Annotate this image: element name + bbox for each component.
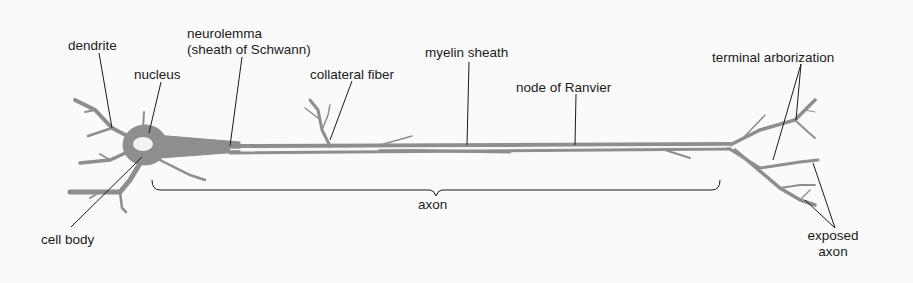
label-myelin-sheath: myelin sheath — [425, 45, 508, 60]
label-collateral-fiber: collateral fiber — [310, 67, 394, 82]
neuron-diagram: dendrite nucleus neurolemma (sheath of S… — [0, 0, 913, 283]
neuron-illustration — [0, 0, 913, 283]
label-node-of-ranvier: node of Ranvier — [516, 80, 611, 95]
label-terminal-arborization: terminal arborization — [712, 50, 834, 65]
label-exposed-axon: exposed — [803, 228, 863, 243]
label-neurolemma: neurolemma — [187, 26, 262, 41]
label-axon: axon — [418, 197, 447, 212]
label-cell-body: cell body — [41, 232, 94, 247]
label-exposed-axon-sub: axon — [803, 244, 863, 259]
label-nucleus: nucleus — [134, 67, 181, 82]
label-neurolemma-sub: (sheath of Schwann) — [187, 42, 311, 57]
label-dendrite: dendrite — [68, 38, 117, 53]
